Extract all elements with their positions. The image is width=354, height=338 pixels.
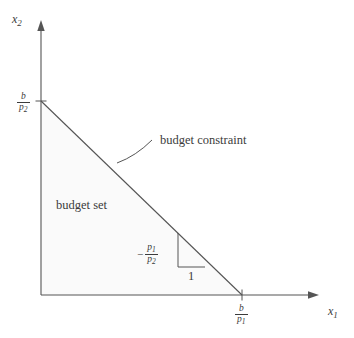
y-intercept-label: b p2 <box>17 92 30 114</box>
budget-set-label: budget set <box>56 199 107 212</box>
x-intercept-label: b p1 <box>235 304 248 326</box>
slope-label: − p1 p2 <box>137 243 158 266</box>
budget-constraint-figure: x2 x1 b p2 b p1 budget constraint budget… <box>0 0 354 338</box>
y-axis-label: x2 <box>12 13 22 28</box>
budget-constraint-label: budget constraint <box>160 134 246 147</box>
y-axis-arrowhead <box>37 20 44 31</box>
y-intercept-fraction: b p2 <box>17 92 30 114</box>
x-axis-arrowhead <box>308 291 319 298</box>
slope-fraction: p1 p2 <box>145 243 158 266</box>
budget-constraint-leader-curve <box>117 140 152 163</box>
x-axis-label: x1 <box>328 305 338 320</box>
slope-minus-sign: − <box>137 249 143 260</box>
figure-canvas <box>0 0 354 338</box>
x-intercept-fraction: b p1 <box>235 304 248 326</box>
slope-run-label: 1 <box>188 270 194 283</box>
